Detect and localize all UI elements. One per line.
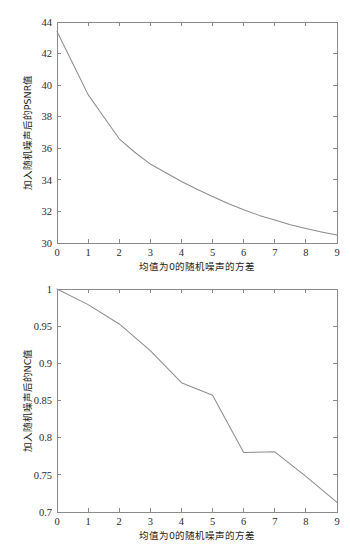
x-axis-title: 均值为0的随机噪声的方差 — [139, 261, 255, 272]
x-tick-label: 6 — [241, 247, 246, 258]
x-tick-label: 8 — [303, 516, 308, 527]
x-tick-label: 4 — [179, 247, 185, 258]
x-tick-label: 2 — [117, 247, 122, 258]
x-tick-label: 7 — [272, 247, 277, 258]
x-tick-label: 2 — [117, 516, 122, 527]
x-tick-label: 4 — [179, 516, 185, 527]
y-tick-label: 0.85 — [34, 395, 52, 406]
x-tick-label: 5 — [210, 247, 215, 258]
plot-frame — [57, 289, 337, 512]
x-tick-label: 1 — [85, 247, 90, 258]
y-tick-label: 30 — [42, 238, 53, 249]
y-tick-label: 40 — [42, 80, 53, 91]
y-tick-label: 34 — [42, 175, 53, 186]
y-tick-label: 0.8 — [39, 432, 52, 443]
x-tick-label: 3 — [148, 247, 153, 258]
y-tick-label: 42 — [42, 48, 53, 59]
y-axis-title: 加入随机噪声后的PSNR值 — [22, 75, 33, 190]
x-tick-label: 5 — [210, 516, 215, 527]
x-tick-label: 1 — [85, 516, 90, 527]
y-tick-label: 38 — [42, 111, 53, 122]
x-tick-label: 9 — [334, 516, 339, 527]
x-tick-label: 3 — [148, 516, 153, 527]
x-tick-label: 7 — [272, 516, 277, 527]
psnr-plot-svg: 01234567893032343638404244均值为0的随机噪声的方差加入… — [0, 0, 350, 277]
plot-frame — [57, 22, 337, 243]
y-tick-label: 0.7 — [39, 507, 52, 518]
y-tick-label: 44 — [42, 17, 53, 28]
nc-plot-svg: 01234567890.70.750.80.850.90.951均值为0的随机噪… — [0, 277, 350, 554]
data-series-line — [57, 289, 337, 502]
y-tick-label: 1 — [47, 284, 52, 295]
y-tick-label: 0.9 — [39, 358, 52, 369]
x-tick-label: 9 — [334, 247, 339, 258]
data-series-line — [57, 31, 337, 235]
x-tick-label: 0 — [54, 516, 59, 527]
x-axis-title: 均值为0的随机噪声的方差 — [139, 530, 255, 541]
y-axis-title: 加入随机噪声后的NC值 — [22, 349, 33, 453]
x-tick-label: 6 — [241, 516, 246, 527]
chart-nc: 01234567890.70.750.80.850.90.951均值为0的随机噪… — [0, 277, 350, 554]
x-tick-label: 8 — [303, 247, 308, 258]
chart-psnr: 01234567893032343638404244均值为0的随机噪声的方差加入… — [0, 0, 350, 277]
y-tick-label: 0.75 — [34, 470, 52, 481]
y-tick-label: 32 — [42, 206, 53, 217]
x-tick-label: 0 — [54, 247, 59, 258]
y-tick-label: 36 — [42, 143, 53, 154]
y-tick-label: 0.95 — [34, 321, 52, 332]
